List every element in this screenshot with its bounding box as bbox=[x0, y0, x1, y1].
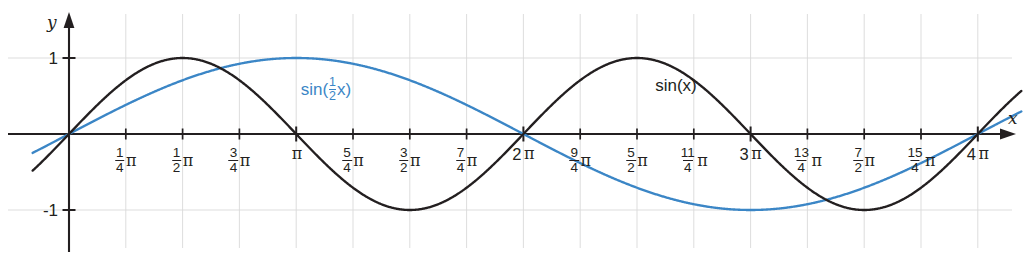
fraction-denominator: 4 bbox=[342, 160, 352, 175]
x-tick-label: 4π bbox=[967, 146, 989, 163]
fraction-numerator: 5 bbox=[342, 146, 352, 160]
fraction-denominator: 2 bbox=[853, 160, 863, 175]
pi-symbol: π bbox=[696, 153, 708, 169]
fraction-denominator: 2 bbox=[399, 160, 409, 175]
fraction: 12 bbox=[172, 146, 182, 176]
fraction-denominator: 2 bbox=[172, 160, 182, 175]
annotation-text: sin(x) bbox=[655, 76, 697, 95]
y-axis-arrow bbox=[64, 12, 75, 28]
fraction-numerator: 15 bbox=[906, 146, 923, 160]
fraction-numerator: 7 bbox=[853, 146, 863, 160]
fraction: 52 bbox=[626, 146, 636, 176]
x-tick-label: 3π bbox=[739, 146, 761, 163]
fraction-denominator: 4 bbox=[797, 160, 807, 175]
pi-symbol: π bbox=[810, 153, 822, 169]
pi-symbol: π bbox=[290, 146, 302, 162]
fraction: 74 bbox=[456, 146, 466, 176]
sine-curves-chart: 14π12π34ππ54π32π74π2π94π52π114π3π134π72π… bbox=[0, 0, 1032, 258]
x-tick-label: 52π bbox=[626, 146, 648, 176]
x-tick-label: 134π bbox=[793, 146, 822, 176]
curve-annotation-sin-x: sin(x) bbox=[655, 77, 697, 94]
fraction-denominator: 4 bbox=[569, 160, 579, 175]
x-tick-label: 12π bbox=[172, 146, 194, 176]
fraction: 134 bbox=[793, 146, 810, 176]
y-tick-label: 1 bbox=[49, 50, 58, 67]
tick-integer: 2 bbox=[512, 146, 522, 163]
fraction-denominator: 4 bbox=[229, 160, 239, 175]
fraction: 72 bbox=[853, 146, 863, 176]
fraction: 34 bbox=[229, 146, 239, 176]
pi-symbol: π bbox=[579, 153, 591, 169]
x-tick-label: 114π bbox=[680, 146, 708, 176]
pi-symbol: π bbox=[181, 153, 193, 169]
pi-symbol: π bbox=[863, 153, 875, 169]
fraction-denominator: 4 bbox=[115, 160, 125, 175]
fraction-numerator: 3 bbox=[399, 146, 409, 160]
tick-integer: 3 bbox=[739, 146, 749, 163]
fraction-numerator: 5 bbox=[626, 146, 636, 160]
pi-symbol: π bbox=[636, 153, 648, 169]
x-axis-label: x bbox=[1008, 110, 1018, 127]
x-tick-label: π bbox=[290, 146, 302, 162]
fraction-numerator: 1 bbox=[328, 76, 337, 89]
annotation-prefix: sin( bbox=[301, 80, 328, 99]
pi-symbol: π bbox=[409, 153, 421, 169]
fraction-denominator: 4 bbox=[456, 160, 466, 175]
fraction-numerator: 13 bbox=[793, 146, 810, 160]
plot-canvas bbox=[0, 0, 1032, 258]
fraction: 114 bbox=[680, 146, 696, 176]
x-tick-label: 154π bbox=[906, 146, 935, 176]
fraction-numerator: 11 bbox=[680, 146, 696, 160]
curve-annotation-sin-half-x: sin(12x) bbox=[301, 77, 352, 104]
x-axis-arrow bbox=[1000, 129, 1016, 140]
fraction-denominator: 4 bbox=[910, 160, 920, 175]
x-tick-label: 94π bbox=[569, 146, 591, 176]
y-axis-label: y bbox=[47, 14, 57, 31]
x-tick-label: 34π bbox=[229, 146, 251, 176]
fraction-denominator: 2 bbox=[626, 160, 636, 175]
pi-symbol: π bbox=[352, 153, 364, 169]
pi-symbol: π bbox=[125, 153, 137, 169]
x-tick-label: 14π bbox=[115, 146, 137, 176]
fraction-denominator: 4 bbox=[683, 160, 693, 175]
fraction: 54 bbox=[342, 146, 352, 176]
fraction-denominator: 2 bbox=[329, 89, 336, 103]
fraction: 154 bbox=[906, 146, 923, 176]
fraction: 12 bbox=[328, 76, 337, 103]
x-tick-label: 74π bbox=[456, 146, 478, 176]
x-tick-label: 2π bbox=[512, 146, 534, 163]
pi-symbol: π bbox=[977, 146, 989, 162]
pi-symbol: π bbox=[522, 146, 534, 162]
fraction-numerator: 3 bbox=[229, 146, 239, 160]
grid-lines bbox=[8, 14, 1012, 248]
fraction-numerator: 9 bbox=[569, 146, 579, 160]
fraction-numerator: 1 bbox=[115, 146, 125, 160]
fraction: 94 bbox=[569, 146, 579, 176]
pi-symbol: π bbox=[465, 153, 477, 169]
tick-integer: 4 bbox=[967, 146, 977, 163]
fraction-numerator: 1 bbox=[172, 146, 182, 160]
fraction-numerator: 7 bbox=[456, 146, 466, 160]
fraction: 14 bbox=[115, 146, 125, 176]
y-tick-label: -1 bbox=[43, 202, 58, 219]
pi-symbol: π bbox=[750, 146, 762, 162]
x-tick-label: 72π bbox=[853, 146, 875, 176]
pi-symbol: π bbox=[924, 153, 936, 169]
annotation-suffix: x) bbox=[337, 80, 351, 99]
fraction: 32 bbox=[399, 146, 409, 176]
pi-symbol: π bbox=[238, 153, 250, 169]
x-tick-label: 32π bbox=[399, 146, 421, 176]
x-tick-label: 54π bbox=[342, 146, 364, 176]
